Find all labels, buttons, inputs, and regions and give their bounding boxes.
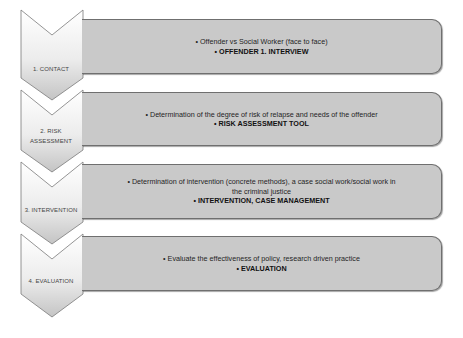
step-label-text: 3. INTERVENTION (25, 207, 78, 213)
bullet-text: • Determination of the degree of risk of… (145, 110, 377, 120)
chevron-step-1 (21, 10, 83, 100)
bullet-heading: • INTERVENTION, CASE MANAGEMENT (193, 196, 329, 206)
bullet-text: • Evaluate the effectiveness of policy, … (163, 254, 360, 264)
bullet-heading: • RISK ASSESSMENT TOOL (214, 119, 309, 129)
bullet-text: • Determination of intervention (concret… (127, 177, 395, 187)
step-box-evaluation: • Evaluate the effectiveness of policy, … (82, 236, 442, 291)
step-label-contact: 1. CONTACT (19, 64, 83, 74)
bullet-text: • Offender vs Social Worker (face to fac… (195, 37, 327, 47)
chevron-step-3 (21, 162, 83, 244)
step-box-intervention: • Determination of intervention (concret… (82, 164, 442, 219)
bullet-heading: • OFFENDER 1. INTERVIEW (215, 47, 309, 57)
step-label-intervention: 3. INTERVENTION (19, 205, 83, 215)
step-box-risk-assessment: • Determination of the degree of risk of… (82, 92, 442, 146)
step-label-text: ASSESSMENT (19, 136, 83, 146)
step-box-contact: • Offender vs Social Worker (face to fac… (82, 19, 442, 74)
bullet-heading: • EVALUATION (236, 264, 286, 274)
step-label-text: 1. CONTACT (33, 66, 69, 72)
step-label-evaluation: 4. EVALUATION (19, 276, 83, 286)
step-label-text: 4. EVALUATION (28, 278, 73, 284)
step-label-risk-assessment: 2. RISK ASSESSMENT (19, 126, 83, 146)
bullet-text-continued: the criminal justice (232, 187, 291, 197)
step-label-text: 2. RISK (19, 126, 83, 136)
process-diagram: 1. CONTACT • Offender vs Social Worker (… (0, 0, 463, 338)
